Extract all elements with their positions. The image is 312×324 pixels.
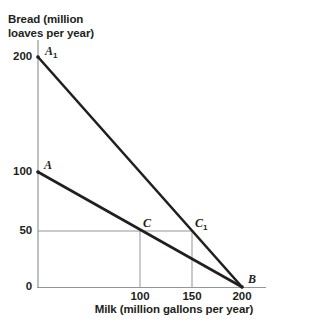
x-tick-label-200: 200 [225, 290, 259, 302]
x-axis-title: Milk (million gallons per year) [0, 303, 312, 315]
axes [37, 40, 266, 288]
point-label-C1-text: C [195, 216, 203, 230]
point-label-A1: A1 [45, 44, 57, 60]
point-label-A1-sub: 1 [53, 51, 57, 60]
y-tick-label-50: 50 [2, 224, 32, 236]
point-label-A1-text: A [45, 44, 53, 58]
point-label-C1: C1 [195, 216, 207, 232]
point-label-C: C [143, 216, 151, 231]
point-label-C-text: C [143, 216, 151, 230]
point-label-C1-sub: 1 [203, 223, 207, 232]
x-tick-label-100: 100 [123, 290, 157, 302]
ppf-chart: Bread (millionloaves per year) 200 100 5… [0, 0, 312, 324]
point-label-B: B [248, 272, 256, 287]
point-marker-A [36, 170, 40, 174]
y-tick-label-200: 200 [2, 50, 32, 62]
y-tick-label-100: 100 [2, 165, 32, 177]
x-tick-label-150: 150 [175, 290, 209, 302]
point-label-B-text: B [248, 272, 256, 286]
point-marker-B [240, 285, 244, 289]
point-label-A-text: A [44, 158, 52, 172]
point-marker-A1 [36, 55, 40, 59]
y-tick-label-0: 0 [2, 280, 32, 292]
point-label-A: A [44, 158, 52, 173]
guide-lines [38, 231, 192, 287]
